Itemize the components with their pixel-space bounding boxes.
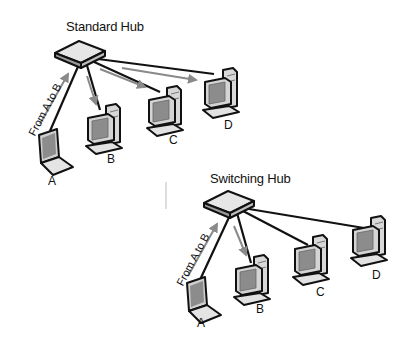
computer-c-icon [147,86,183,136]
network-diagram [0,0,413,347]
switching-node-b-label: B [256,302,264,316]
standard-hub-title: Standard Hub [66,19,144,34]
computer-d-icon [203,68,239,118]
switching-node-c-label: C [316,285,325,299]
switching-node-a-label: A [197,316,205,330]
computer-c-icon [293,235,329,285]
switching-node-d-label: D [372,268,381,282]
standard-hub-diagram [39,41,239,175]
standard-node-b-label: B [107,152,115,166]
computer-b-icon [86,104,122,154]
standard-node-d-label: D [224,118,233,132]
cables [199,209,364,282]
computer-d-icon [351,216,387,266]
laptop-a-icon [39,129,73,175]
switching-hub-title: Switching Hub [210,171,291,186]
standard-node-a-label: A [48,174,56,188]
standard-node-c-label: C [169,133,178,147]
